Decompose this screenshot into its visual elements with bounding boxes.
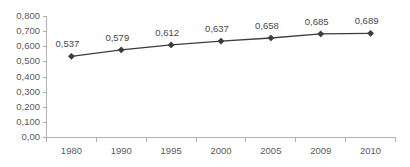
series-data-point xyxy=(268,35,274,41)
x-axis-tick-label: 2009 xyxy=(310,145,331,156)
series-data-labels: 0,5370,5790,6120,6370,6580,6850,689 xyxy=(56,15,379,49)
x-axis-tick-labels: 1980199019952000200520092010 xyxy=(61,145,381,156)
series-data-point xyxy=(218,38,224,44)
y-axis-tick-label: 0,300 xyxy=(16,86,40,97)
x-axis-tick-label: 2005 xyxy=(260,145,281,156)
line-chart: 0,000,1000,2000,3000,4000,5000,6000,7000… xyxy=(0,0,410,167)
series-data-point xyxy=(168,42,174,48)
chart-canvas: 0,000,1000,2000,3000,4000,5000,6000,7000… xyxy=(0,0,410,167)
series-data-label: 0,637 xyxy=(205,23,229,34)
y-axis-tick-label: 0,00 xyxy=(22,131,41,142)
series-data-point xyxy=(118,47,124,53)
x-axis: 1980199019952000200520092010 xyxy=(47,138,396,156)
x-axis-tick-label: 1990 xyxy=(111,145,132,156)
y-axis-tick-label: 0,200 xyxy=(16,101,40,112)
series-data-label: 0,658 xyxy=(255,20,279,31)
x-axis-tick-label: 2000 xyxy=(210,145,231,156)
plot-area: 0,5370,5790,6120,6370,6580,6850,689 xyxy=(56,15,379,59)
x-axis-tick-label: 2010 xyxy=(360,145,381,156)
x-axis-tick-label: 1995 xyxy=(161,145,182,156)
y-axis-tick-marks xyxy=(43,17,47,138)
y-axis: 0,000,1000,2000,3000,4000,5000,6000,7000… xyxy=(16,10,46,142)
y-axis-tick-label: 0,500 xyxy=(16,55,40,66)
y-axis-tick-labels: 0,000,1000,2000,3000,4000,5000,6000,7000… xyxy=(16,10,40,142)
series-data-point xyxy=(318,31,324,37)
x-axis-tick-marks xyxy=(47,138,396,142)
series-data-point xyxy=(68,53,74,59)
series-data-label: 0,685 xyxy=(305,16,329,27)
series-data-label: 0,689 xyxy=(355,15,379,26)
y-axis-tick-label: 0,800 xyxy=(16,10,40,21)
series-data-point xyxy=(367,30,373,36)
series-data-label: 0,579 xyxy=(105,32,129,43)
y-axis-tick-label: 0,400 xyxy=(16,71,40,82)
y-axis-tick-label: 0,100 xyxy=(16,116,40,127)
x-axis-tick-label: 1980 xyxy=(61,145,82,156)
series-data-label: 0,612 xyxy=(155,27,179,38)
y-axis-tick-label: 0,600 xyxy=(16,40,40,51)
series-data-label: 0,537 xyxy=(56,38,80,49)
y-axis-tick-label: 0,700 xyxy=(16,25,40,36)
